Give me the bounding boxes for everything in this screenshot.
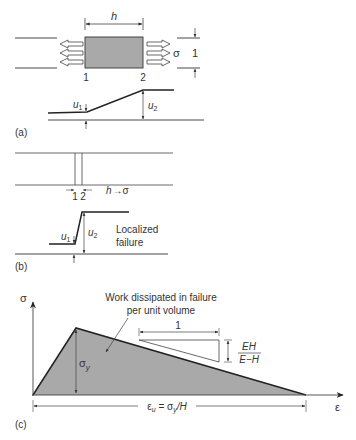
u2-label-b: u2 [88,227,98,239]
panel-c: σ ε σy Work dissipated in failure per un… [15,292,343,430]
bar-element [85,37,143,68]
y-axis-label: σ [20,292,27,304]
stress-label: σ [173,47,180,59]
right-stress-arrows-icon [147,40,170,66]
unit-height-label: 1 [192,47,198,59]
panel-c-tag: (c) [15,419,27,430]
x-axis-label: ε [335,401,340,413]
annotation-line2: per unit volume [127,305,196,316]
point-2-label: 2 [140,72,146,83]
width-label: h [111,10,117,22]
localized-failure-line2: failure [116,237,144,248]
slope-numerator: EH [242,341,257,352]
dissipated-work-area [33,328,306,395]
panel-a-tag: (a) [15,127,27,138]
localized-failure-line1: Localized [116,224,158,235]
panel-b: 1 2 h→σ u1 u2 Localized failure (b) [15,153,173,272]
panel-a: h σ 1 1 2 u1 u2 [15,10,204,138]
panel-b-tag: (b) [15,261,27,272]
limit-label: h→σ [106,185,130,196]
slope-denominator: E−H [239,354,260,365]
point-1-label: 1 [83,72,89,83]
point-2-label-b: 2 [80,191,86,202]
slope-run-label: 1 [175,320,181,331]
annotation-line1: Work dissipated in failure [105,292,217,303]
ultimate-strain-label: εu = σy/H [147,401,187,414]
u2-label-a: u2 [148,100,158,112]
u1-label-b: u1 [61,231,71,243]
u1-label-a: u1 [73,99,83,111]
figure: h σ 1 1 2 u1 u2 [0,0,356,440]
point-1-label-b: 1 [72,191,78,202]
left-stress-arrows-icon [60,40,83,66]
